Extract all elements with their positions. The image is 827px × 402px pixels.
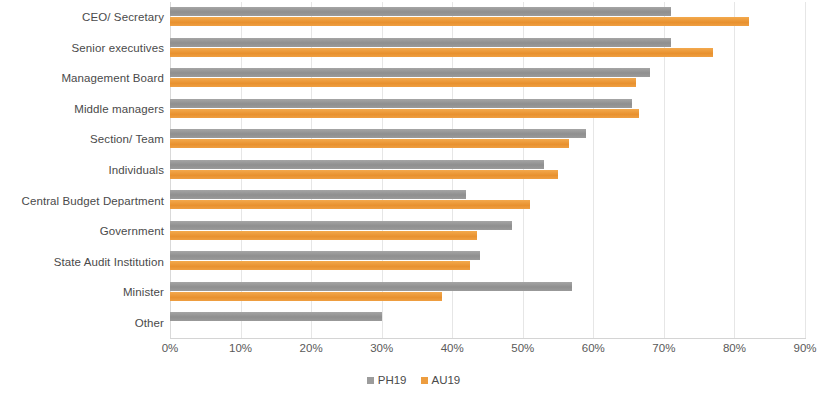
x-tick-label: 40% bbox=[441, 342, 464, 354]
bar-group bbox=[170, 2, 805, 33]
horizontal-bar-chart: CEO/ SecretarySenior executivesManagemen… bbox=[0, 0, 827, 402]
bar-au19 bbox=[170, 109, 639, 118]
x-tick-label: 0% bbox=[162, 342, 179, 354]
bar-ph19 bbox=[170, 190, 466, 199]
bar-au19 bbox=[170, 261, 470, 270]
x-axis-tick-labels: 0%10%20%30%40%50%60%70%80%90% bbox=[170, 342, 805, 360]
bar-au19 bbox=[170, 292, 442, 301]
bar-au19 bbox=[170, 200, 530, 209]
category-label: Government bbox=[0, 225, 164, 237]
bar-group bbox=[170, 33, 805, 64]
x-tick-label: 10% bbox=[229, 342, 252, 354]
category-axis-labels: CEO/ SecretarySenior executivesManagemen… bbox=[0, 2, 164, 338]
bar-group bbox=[170, 246, 805, 277]
bar-group bbox=[170, 63, 805, 94]
x-tick-label: 30% bbox=[370, 342, 393, 354]
gridline-90% bbox=[805, 2, 806, 338]
x-axis-line bbox=[170, 338, 806, 339]
legend-item-au19[interactable]: AU19 bbox=[421, 374, 461, 386]
bar-ph19 bbox=[170, 160, 544, 169]
x-tick-label: 70% bbox=[652, 342, 675, 354]
bar-group bbox=[170, 185, 805, 216]
category-label: Senior executives bbox=[0, 42, 164, 54]
category-label: CEO/ Secretary bbox=[0, 11, 164, 23]
category-label: Individuals bbox=[0, 164, 164, 176]
bar-ph19 bbox=[170, 312, 382, 321]
bar-au19 bbox=[170, 139, 569, 148]
bar-ph19 bbox=[170, 129, 586, 138]
x-tick-label: 60% bbox=[582, 342, 605, 354]
bar-au19 bbox=[170, 17, 749, 26]
category-label: Central Budget Department bbox=[0, 195, 164, 207]
category-label: Section/ Team bbox=[0, 133, 164, 145]
bar-ph19 bbox=[170, 251, 480, 260]
bar-group bbox=[170, 155, 805, 186]
legend-label: PH19 bbox=[378, 374, 407, 386]
x-tick-label: 50% bbox=[511, 342, 534, 354]
bar-group bbox=[170, 216, 805, 247]
x-tick-label: 90% bbox=[793, 342, 816, 354]
category-label: Other bbox=[0, 317, 164, 329]
category-label: Middle managers bbox=[0, 103, 164, 115]
x-tick-label: 80% bbox=[723, 342, 746, 354]
bar-group bbox=[170, 94, 805, 125]
legend-item-ph19[interactable]: PH19 bbox=[367, 374, 407, 386]
bar-rows bbox=[170, 2, 805, 338]
category-label: Minister bbox=[0, 286, 164, 298]
bar-ph19 bbox=[170, 7, 671, 16]
bar-ph19 bbox=[170, 99, 632, 108]
bar-ph19 bbox=[170, 221, 512, 230]
bar-group bbox=[170, 124, 805, 155]
bar-au19 bbox=[170, 78, 636, 87]
legend-swatch-icon bbox=[367, 377, 374, 384]
chart-legend: PH19AU19 bbox=[0, 374, 827, 386]
plot-area bbox=[170, 2, 805, 338]
bar-group bbox=[170, 277, 805, 308]
bar-ph19 bbox=[170, 38, 671, 47]
category-label: State Audit Institution bbox=[0, 256, 164, 268]
legend-swatch-icon bbox=[421, 377, 428, 384]
bar-au19 bbox=[170, 170, 558, 179]
bar-au19 bbox=[170, 231, 477, 240]
x-tick-label: 20% bbox=[300, 342, 323, 354]
bar-group bbox=[170, 307, 805, 338]
category-label: Management Board bbox=[0, 72, 164, 84]
legend-label: AU19 bbox=[432, 374, 461, 386]
bar-ph19 bbox=[170, 282, 572, 291]
bar-au19 bbox=[170, 48, 713, 57]
bar-ph19 bbox=[170, 68, 650, 77]
